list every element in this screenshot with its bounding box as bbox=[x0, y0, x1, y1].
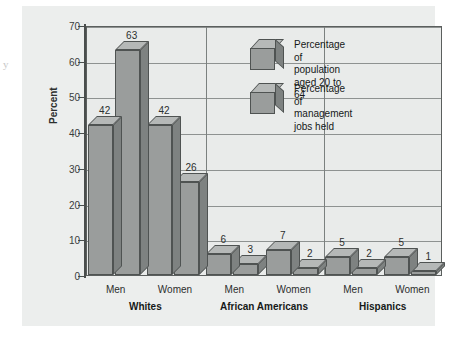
y-axis-tick-label: 40 bbox=[58, 128, 80, 139]
x-axis-category-label: Men bbox=[343, 284, 362, 295]
x-axis-category-label: Women bbox=[158, 284, 192, 295]
bar-front-face bbox=[206, 254, 231, 275]
cube-side-face bbox=[275, 39, 284, 69]
cube-front-face bbox=[250, 92, 275, 114]
bar-value-label: 42 bbox=[158, 105, 169, 116]
bar-front-face bbox=[384, 257, 409, 275]
bar-value-label: 1 bbox=[426, 251, 432, 262]
cube-3d-icon bbox=[250, 39, 284, 71]
y-axis-tick-label: 0 bbox=[58, 271, 80, 282]
bar-value-label: 2 bbox=[366, 248, 372, 259]
plot-frame: 4263422663725251 Percentage of populatio… bbox=[86, 26, 442, 276]
figure-panel: Percent 010203040506070 4263422663725251… bbox=[22, 6, 435, 326]
bar-side-face bbox=[140, 41, 149, 275]
gridline bbox=[87, 27, 441, 28]
bar-front-face bbox=[147, 125, 172, 275]
y-axis-tick-label: 30 bbox=[58, 163, 80, 174]
bar-value-label: 5 bbox=[339, 237, 345, 248]
y-axis-tick-label: 70 bbox=[58, 21, 80, 32]
legend-label: Percentage of management jobs held bbox=[294, 83, 352, 133]
bar-hispanics-women-population bbox=[384, 257, 409, 275]
bar-value-label: 3 bbox=[248, 244, 254, 255]
bar-front-face bbox=[325, 257, 350, 275]
x-axis-group-label: African Americans bbox=[220, 301, 308, 312]
bar-whites-women-population bbox=[147, 125, 172, 275]
bar-value-label: 26 bbox=[185, 162, 196, 173]
bar-front-face bbox=[88, 125, 113, 275]
bar-side-face bbox=[199, 173, 208, 275]
bar-value-label: 42 bbox=[99, 105, 110, 116]
bar-front-face bbox=[411, 271, 436, 275]
bar-front-face bbox=[266, 250, 291, 275]
figure-root: y Percent 010203040506070 42634226637252… bbox=[0, 0, 457, 338]
x-axis-category-label: Men bbox=[106, 284, 125, 295]
bar-value-label: 6 bbox=[221, 234, 227, 245]
x-axis-group-label: Hispanics bbox=[359, 301, 406, 312]
bar-value-label: 2 bbox=[307, 248, 313, 259]
bar-hispanics-men-population bbox=[325, 257, 350, 275]
bar-value-label: 63 bbox=[126, 30, 137, 41]
y-axis-tick-label: 10 bbox=[58, 235, 80, 246]
bar-side-face bbox=[113, 116, 122, 275]
plot-area: 4263422663725251 Percentage of populatio… bbox=[87, 27, 441, 275]
bar-hispanics-women-management bbox=[411, 271, 436, 275]
cube-front-face bbox=[250, 48, 275, 70]
bar-side-face bbox=[172, 116, 181, 275]
scan-artifact-letter: y bbox=[3, 58, 9, 70]
x-axis-category-label: Women bbox=[277, 284, 311, 295]
bar-african-americans-men-population bbox=[206, 254, 231, 275]
x-axis-category-label: Women bbox=[395, 284, 429, 295]
bar-value-label: 7 bbox=[280, 230, 286, 241]
cube-side-face bbox=[275, 83, 284, 113]
y-axis-tick-label: 20 bbox=[58, 199, 80, 210]
bar-value-label: 5 bbox=[399, 237, 405, 248]
cube-3d-icon bbox=[250, 83, 284, 115]
bar-whites-men-population bbox=[88, 125, 113, 275]
x-axis-category-label: Men bbox=[225, 284, 244, 295]
y-axis-tick-label: 60 bbox=[58, 56, 80, 67]
y-axis-tick-label: 50 bbox=[58, 92, 80, 103]
x-axis-group-label: Whites bbox=[129, 301, 162, 312]
bar-african-americans-women-population bbox=[266, 250, 291, 275]
